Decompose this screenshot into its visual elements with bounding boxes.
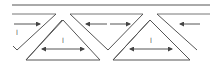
label-left: l (16, 29, 18, 37)
triangle-1 (26, 14, 108, 60)
left-zigzag (13, 14, 62, 60)
diagram-canvas: l l l (0, 0, 214, 63)
middle-strip (108, 14, 150, 60)
label-triangle-2: l (150, 37, 152, 45)
triangle-2 (113, 14, 197, 60)
label-triangle-1: l (62, 37, 64, 45)
